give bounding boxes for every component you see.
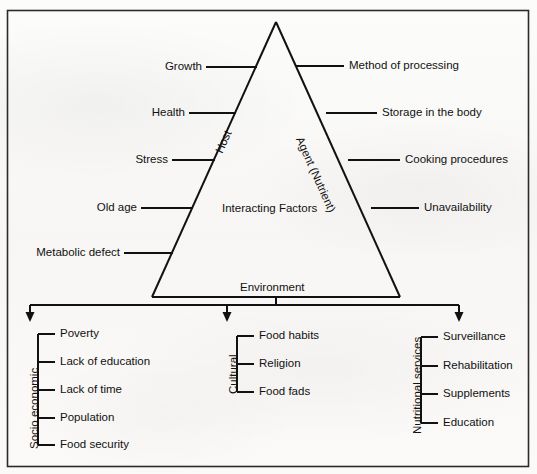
diagram-page: Interacting Factors Host Agent (Nutrient…	[0, 0, 537, 474]
host-factor-health: Health	[29, 106, 185, 119]
branch-item-rehabilitation: Rehabilitation	[443, 359, 513, 371]
branch-title-nutritional-services: Nutritional services	[411, 337, 423, 434]
agent-factor-method-of-processing: Method of processing	[349, 59, 459, 72]
branch-item-population: Population	[60, 411, 114, 423]
branch-item-education: Education	[443, 416, 494, 428]
host-factor-old-age: Old age	[0, 201, 137, 214]
branch-item-religion: Religion	[259, 357, 301, 369]
interacting-factors-label: Interacting Factors	[222, 202, 317, 215]
host-factor-stress: Stress	[12, 153, 168, 166]
agent-factor-unavailability: Unavailability	[424, 201, 492, 214]
branch-item-food-fads: Food fads	[259, 385, 310, 397]
branch-item-food-security: Food security	[60, 438, 129, 450]
arrow-head-cultural	[223, 312, 232, 322]
agent-factor-storage-in-the-body: Storage in the body	[382, 106, 482, 119]
environment-base-label: Environment	[240, 281, 305, 294]
branch-title-socio-economic: Socio economic	[28, 368, 40, 449]
agent-factor-cooking-procedures: Cooking procedures	[405, 153, 508, 166]
branch-title-cultural: Cultural	[227, 354, 239, 394]
arrow-head-socio-economic	[26, 312, 35, 322]
host-factor-metabolic-defect: Metabolic defect	[0, 246, 120, 259]
branch-item-lack-of-time: Lack of time	[60, 383, 122, 395]
branch-item-food-habits: Food habits	[259, 329, 319, 341]
arrow-head-nutritional-services	[455, 312, 464, 322]
branch-item-lack-of-education: Lack of education	[60, 355, 150, 367]
branch-item-poverty: Poverty	[60, 327, 99, 339]
branch-item-supplements: Supplements	[443, 387, 510, 399]
branch-item-surveillance: Surveillance	[443, 330, 506, 342]
host-factor-growth: Growth	[46, 60, 202, 73]
